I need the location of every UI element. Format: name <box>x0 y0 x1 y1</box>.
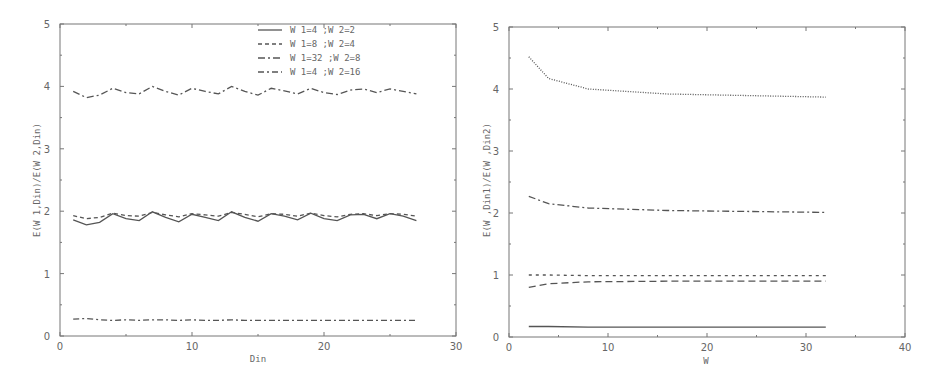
series-line-solid <box>529 327 826 328</box>
left-plot-frame <box>60 24 456 336</box>
right-x-ticks: 010203040 <box>506 27 912 353</box>
left-plot: 0102030 012345 Din E(W 1,Din)/E(W 2,Din)… <box>32 19 462 364</box>
x-tick-label: 20 <box>318 341 331 352</box>
right-y-ticks: 012345 <box>493 22 905 343</box>
x-tick-label: 20 <box>701 342 714 353</box>
figure: 0102030 012345 Din E(W 1,Din)/E(W 2,Din)… <box>0 0 945 380</box>
right-y-axis-label: E(W ,Din1)/E(W ,Din2) <box>482 123 492 237</box>
legend-label: W 1=4 ;W 2=16 <box>290 67 360 77</box>
left-x-axis-label: Din <box>250 354 266 364</box>
series-line-dash-dot <box>73 86 416 97</box>
series-line-dash-dot-dot <box>73 319 416 321</box>
legend-label: W 1=8 ;W 2=4 <box>290 39 355 49</box>
y-tick-label: 5 <box>44 19 50 30</box>
y-tick-label: 1 <box>493 270 499 281</box>
x-tick-label: 40 <box>899 342 912 353</box>
x-tick-label: 0 <box>57 341 63 352</box>
right-series <box>529 57 826 327</box>
x-tick-label: 10 <box>602 342 615 353</box>
left-y-ticks: 012345 <box>44 19 456 342</box>
y-tick-label: 2 <box>44 206 50 217</box>
y-tick-label: 4 <box>44 81 50 92</box>
y-tick-label: 1 <box>44 269 50 280</box>
legend-label: W 1=32 ;W 2=8 <box>290 53 360 63</box>
left-x-ticks: 0102030 <box>57 24 463 352</box>
series-line-dash-dot <box>529 196 826 212</box>
right-x-axis-label: W <box>703 356 709 366</box>
left-series <box>73 86 416 320</box>
x-tick-label: 30 <box>450 341 463 352</box>
left-y-axis-label: E(W 1,Din)/E(W 2,Din) <box>32 123 42 237</box>
series-line-short-dashed <box>529 275 826 276</box>
y-tick-label: 5 <box>493 22 499 33</box>
x-tick-label: 10 <box>186 341 199 352</box>
x-tick-label: 0 <box>506 342 512 353</box>
right-plot: 010203040 012345 W E(W ,Din1)/E(W ,Din2) <box>482 22 911 366</box>
y-tick-label: 0 <box>493 332 499 343</box>
y-tick-label: 4 <box>493 84 499 95</box>
legend-label: W 1=4 ;W 2=2 <box>290 25 355 35</box>
y-tick-label: 0 <box>44 331 50 342</box>
right-plot-frame <box>509 27 905 337</box>
legend: W 1=4 ;W 2=2 W 1=8 ;W 2=4 W 1=32 ;W 2=8 … <box>258 25 360 77</box>
series-line-long-dashed <box>529 281 826 287</box>
y-tick-label: 3 <box>44 144 50 155</box>
y-tick-label: 3 <box>493 146 499 157</box>
series-line-dotted <box>529 57 826 97</box>
x-tick-label: 30 <box>800 342 813 353</box>
y-tick-label: 2 <box>493 208 499 219</box>
